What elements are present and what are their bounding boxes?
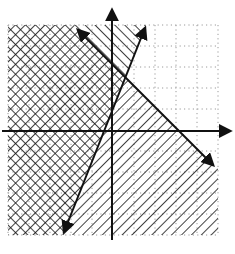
inequality-graph	[0, 0, 235, 254]
graph-canvas	[0, 0, 235, 254]
